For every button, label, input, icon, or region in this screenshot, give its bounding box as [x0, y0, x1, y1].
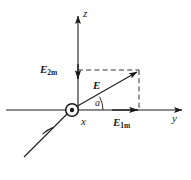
origin-dot-icon [70, 108, 74, 112]
vector-label-E1m-subscript: 1m [120, 121, 130, 130]
vector-label-E-base: E [93, 79, 100, 91]
axis-label-y: y [172, 113, 177, 124]
vector-E-line [74, 72, 137, 108]
vector-label-E2m-subscript: 2m [47, 68, 57, 77]
axis-label-z: z [83, 8, 87, 19]
axis-label-x: x [81, 116, 86, 127]
angle-arc-alpha [100, 97, 103, 110]
x-axis-line [24, 112, 69, 157]
vector-label-E1m: E1m [113, 117, 130, 128]
figure-canvas: z y x E E1m E2m a [0, 0, 191, 180]
vector-label-E2m: E2m [40, 64, 57, 75]
vector-label-E: E [93, 80, 100, 91]
angle-label-alpha: a [95, 98, 100, 108]
